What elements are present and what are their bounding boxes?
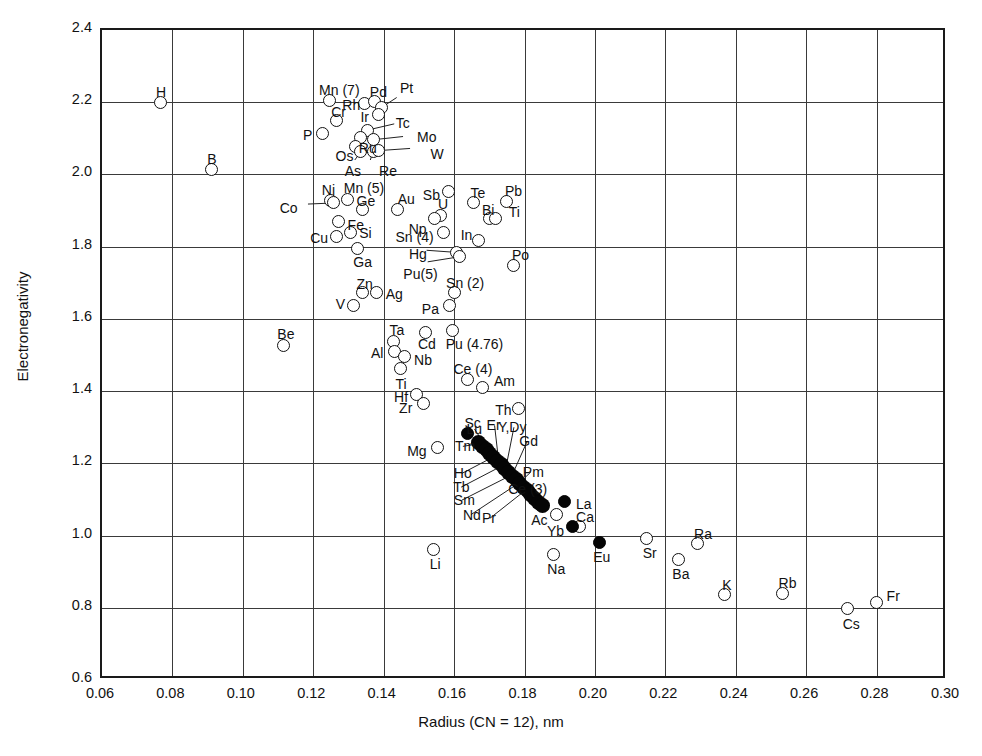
y-tick-label: 1.2 bbox=[46, 452, 92, 468]
data-point-label: Sm bbox=[454, 493, 475, 507]
data-point-label: Ge bbox=[357, 194, 376, 208]
y-tick-label: 1.4 bbox=[46, 380, 92, 396]
data-point-label: K bbox=[722, 578, 731, 592]
data-point-label: Ce (3) bbox=[508, 482, 547, 496]
data-point-label: Hg bbox=[409, 247, 427, 261]
gridline-vertical bbox=[313, 30, 314, 676]
x-tick-label: 0.08 bbox=[135, 685, 205, 701]
data-point-label: Mn (7) bbox=[319, 83, 359, 97]
data-point-label: Mo bbox=[417, 130, 436, 144]
x-tick-label: 0.06 bbox=[65, 685, 135, 701]
gridline-vertical bbox=[172, 30, 173, 676]
y-tick-label: 1.8 bbox=[46, 236, 92, 252]
y-axis-title: Electronegativity bbox=[14, 217, 31, 437]
open-point-p bbox=[316, 127, 329, 140]
data-point-label: Sr bbox=[643, 546, 657, 560]
data-point-label: Pm bbox=[523, 465, 544, 479]
data-point-label: Mg bbox=[407, 444, 426, 458]
x-tick-label: 0.22 bbox=[628, 685, 698, 701]
gridline-horizontal bbox=[102, 608, 943, 609]
data-point-label: Bi bbox=[482, 203, 494, 217]
gridline-vertical bbox=[877, 30, 878, 676]
data-point-label: Sn (4) bbox=[396, 230, 434, 244]
gridline-vertical bbox=[384, 30, 385, 676]
data-point-label: Rb bbox=[779, 576, 797, 590]
open-point-ga bbox=[351, 242, 364, 255]
open-point-pu5 bbox=[453, 250, 466, 263]
data-point-label: Pu (4.76) bbox=[446, 337, 504, 351]
data-point-label: Os bbox=[336, 149, 354, 163]
data-point-label: Lu bbox=[467, 422, 483, 436]
data-point-label: Pu(5) bbox=[403, 267, 437, 281]
x-tick-label: 0.24 bbox=[699, 685, 769, 701]
data-point-label: U bbox=[438, 197, 448, 211]
data-point-label: W bbox=[430, 147, 443, 161]
open-point-fe bbox=[332, 215, 345, 228]
data-point-label: La bbox=[576, 497, 592, 511]
y-tick-label: 1.0 bbox=[46, 525, 92, 541]
open-point-co bbox=[327, 196, 340, 209]
gridline-horizontal bbox=[102, 319, 943, 320]
data-point-label: Cu bbox=[310, 231, 328, 245]
x-tick-label: 0.12 bbox=[276, 685, 346, 701]
open-point-mg bbox=[431, 441, 444, 454]
y-tick-label: 2.0 bbox=[46, 163, 92, 179]
gridline-vertical bbox=[736, 30, 737, 676]
data-point-label: Am bbox=[494, 374, 515, 388]
data-point-label: Yb bbox=[547, 524, 564, 538]
data-point-label: Pb bbox=[505, 184, 522, 198]
open-point-in bbox=[472, 234, 485, 247]
x-tick-label: 0.14 bbox=[347, 685, 417, 701]
open-point-th bbox=[512, 402, 525, 415]
y-tick-label: 0.6 bbox=[46, 669, 92, 685]
data-point-label: Ni bbox=[322, 183, 335, 197]
data-point-label: Pa bbox=[422, 302, 439, 316]
open-point-sr bbox=[640, 532, 653, 545]
gridline-vertical bbox=[595, 30, 596, 676]
data-point-label: Nd bbox=[463, 508, 481, 522]
data-point-label: B bbox=[207, 152, 216, 166]
data-point-label: Pr bbox=[482, 511, 496, 525]
data-point-label: Ce (4) bbox=[453, 362, 492, 376]
open-point-cu bbox=[330, 230, 343, 243]
data-point-label: Zn bbox=[357, 277, 373, 291]
data-point-label: V bbox=[336, 297, 345, 311]
data-point-label: Ra bbox=[694, 527, 712, 541]
data-point-label: Li bbox=[430, 557, 441, 571]
gridline-horizontal bbox=[102, 536, 943, 537]
gridline-vertical bbox=[454, 30, 455, 676]
data-point-label: H bbox=[156, 85, 166, 99]
data-point-label: Ti bbox=[509, 205, 520, 219]
open-point-ac bbox=[550, 508, 563, 521]
data-point-label: As bbox=[345, 164, 361, 178]
filled-point-eu bbox=[593, 536, 606, 549]
data-point-label: Ba bbox=[672, 567, 689, 581]
y-tick-label: 2.4 bbox=[46, 19, 92, 35]
data-point-label: Si bbox=[359, 226, 371, 240]
data-point-label: Th bbox=[495, 403, 511, 417]
data-point-label: Co bbox=[280, 201, 298, 215]
data-point-label: Po bbox=[512, 248, 529, 262]
data-point-label: Sn (2) bbox=[446, 276, 484, 290]
x-axis-title: Radius (CN = 12), nm bbox=[0, 713, 982, 730]
x-tick-label: 0.16 bbox=[417, 685, 487, 701]
open-point-zr bbox=[417, 397, 430, 410]
x-tick-label: 0.26 bbox=[769, 685, 839, 701]
x-tick-label: 0.28 bbox=[840, 685, 910, 701]
gridline-horizontal bbox=[102, 391, 943, 392]
open-point-np bbox=[428, 212, 441, 225]
data-point-label: Al bbox=[371, 346, 383, 360]
data-point-label: Fr bbox=[887, 589, 900, 603]
data-point-label: Be bbox=[277, 327, 294, 341]
open-point-li bbox=[427, 543, 440, 556]
gridline-vertical bbox=[806, 30, 807, 676]
gridline-vertical bbox=[665, 30, 666, 676]
data-point-label: Cr bbox=[331, 105, 346, 119]
open-point-nb bbox=[398, 350, 411, 363]
data-point-label: P bbox=[303, 128, 312, 142]
data-point-label: Cd bbox=[418, 337, 436, 351]
data-point-label: Eu bbox=[593, 550, 610, 564]
gridline-vertical bbox=[525, 30, 526, 676]
data-point-label: In bbox=[461, 228, 473, 242]
data-point-label: Gd bbox=[519, 434, 538, 448]
